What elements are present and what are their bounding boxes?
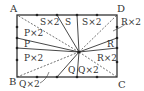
region-label-bottom-mid: Q [68,65,75,75]
region-label-top-mid: S [65,17,71,27]
rectangle-division-diagram: A D B C S×2 S S×2 P×2 P P×2 Q Q×2 Q×2 R … [0,0,144,91]
region-label-top-right: S×2 [82,17,101,27]
dot [116,47,119,50]
vertex-b-label: B [9,76,16,87]
dot [16,47,19,50]
dot [76,14,79,17]
dot [56,76,59,79]
dot [116,26,119,29]
region-label-left-top: P×2 [24,28,43,38]
region-label-bottom-callout: Q×2 [19,79,40,89]
dot [96,14,99,17]
dot [16,37,19,40]
dot [56,14,59,17]
region-label-right-lower: R×2 [97,53,117,63]
dot [16,26,19,29]
region-label-right-callout: R×2 [121,17,141,27]
region-label-left-mid: P [24,39,30,49]
dot [96,76,99,79]
vertex-d-label: D [117,3,125,14]
dot [36,76,39,79]
region-label-bottom-right: Q×2 [78,65,99,75]
center-point [77,50,80,53]
region-label-top-left: S×2 [40,17,59,27]
vertex-a-label: A [9,3,18,14]
dot [76,76,79,79]
dot [16,59,19,62]
region-label-right-mid: R [107,39,114,49]
region-label-left-bottom: P×2 [24,53,43,63]
vertex-c-label: C [118,79,126,90]
dot [36,14,39,17]
dot [116,37,119,40]
line-center-to-top-3 [77,15,79,52]
